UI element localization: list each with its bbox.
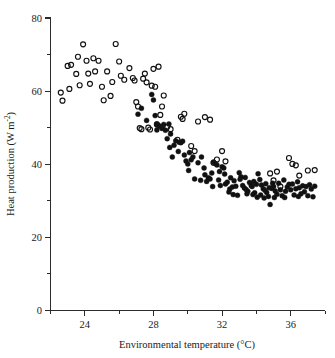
data-point-filled [232, 178, 237, 183]
data-point-open [160, 104, 165, 109]
data-point-open [101, 98, 106, 103]
data-point-filled [243, 175, 248, 180]
data-point-filled [176, 149, 181, 154]
data-point-filled [221, 165, 226, 170]
data-point-filled [187, 150, 192, 155]
data-point-filled [218, 183, 223, 188]
data-point-filled [281, 177, 286, 182]
data-point-filled [312, 184, 317, 189]
data-point-filled [163, 128, 168, 133]
data-point-filled [170, 154, 175, 159]
data-point-open [99, 84, 104, 89]
data-point-open [189, 143, 194, 148]
data-point-open [158, 112, 163, 117]
data-point-filled [255, 195, 260, 200]
data-point-filled [252, 190, 257, 195]
data-point-filled [168, 131, 173, 136]
data-point-filled [196, 160, 201, 165]
data-point-filled [231, 192, 236, 197]
data-point-filled [198, 178, 203, 183]
data-point-filled [227, 187, 232, 192]
data-point-open [87, 81, 92, 86]
data-point-open [305, 168, 310, 173]
y-tick-label: 20 [32, 232, 43, 243]
data-point-open [202, 115, 207, 120]
data-point-filled [180, 139, 185, 144]
data-point-filled [144, 118, 149, 123]
data-point-open [86, 71, 91, 76]
data-point-open [122, 77, 127, 82]
data-point-filled [263, 181, 268, 186]
data-point-open [274, 169, 279, 174]
data-point-open [142, 71, 147, 76]
data-point-filled [310, 194, 315, 199]
data-point-filled [295, 179, 300, 184]
data-point-filled [296, 194, 301, 199]
data-point-filled [244, 191, 249, 196]
data-point-open [161, 93, 166, 98]
data-point-filled [190, 154, 195, 159]
data-point-open [58, 90, 63, 95]
data-point-filled [267, 185, 272, 190]
x-axis-title: Environmental temperature (°C) [119, 339, 255, 351]
y-axis-ticks [45, 18, 51, 311]
y-tick-label: 60 [32, 86, 43, 97]
data-point-filled [153, 113, 158, 118]
data-point-filled [225, 180, 230, 185]
data-point-open [196, 119, 201, 124]
x-tick-label: 28 [148, 319, 159, 330]
data-point-filled [257, 177, 262, 182]
x-axis-ticks [51, 311, 326, 317]
data-point-filled [161, 122, 166, 127]
scatter-plot-figure: 020406080 24283236 Environmental tempera… [0, 0, 335, 358]
data-point-filled [290, 181, 295, 186]
data-point-open [60, 98, 65, 103]
x-tick-label: 32 [217, 319, 228, 330]
data-point-filled [268, 202, 273, 207]
data-point-open [105, 69, 110, 74]
data-point-filled [233, 184, 238, 189]
data-point-filled [166, 122, 171, 127]
data-point-filled [238, 177, 243, 182]
data-point-filled [210, 184, 215, 189]
data-point-open [110, 79, 115, 84]
data-point-filled [276, 181, 281, 186]
data-point-open [182, 111, 187, 116]
data-point-filled [251, 179, 256, 184]
data-point-filled [262, 195, 267, 200]
y-axis-title-group: Heat production (W m-2) [4, 111, 17, 216]
data-point-open [268, 171, 273, 176]
plot-canvas: 020406080 24283236 Environmental tempera… [0, 0, 335, 358]
data-point-filled [302, 189, 307, 194]
y-tick-label: 40 [32, 159, 43, 170]
data-point-filled [222, 172, 227, 177]
data-point-open [74, 71, 79, 76]
data-point-open [96, 58, 101, 63]
series-open-circles [58, 41, 317, 189]
data-point-open [91, 56, 96, 61]
y-axis-tick-labels: 020406080 [32, 13, 43, 317]
x-tick-label: 36 [285, 319, 296, 330]
data-point-filled [256, 171, 261, 176]
data-point-filled [151, 97, 156, 102]
data-point-open [192, 149, 197, 154]
data-point-filled [278, 187, 283, 192]
data-point-filled [202, 165, 207, 170]
data-point-open [77, 83, 82, 88]
data-point-filled [139, 106, 144, 111]
data-point-filled [167, 145, 172, 150]
data-point-open [75, 54, 80, 59]
data-point-open [84, 58, 89, 63]
data-point-filled [182, 153, 187, 158]
data-point-filled [165, 136, 170, 141]
data-point-filled [149, 92, 154, 97]
data-point-filled [272, 195, 277, 200]
data-point-filled [214, 162, 219, 167]
data-point-open [220, 149, 225, 154]
data-point-open [297, 173, 302, 178]
x-tick-label: 24 [80, 319, 91, 330]
x-axis-tick-labels: 24283236 [80, 319, 296, 330]
data-point-open [93, 69, 98, 74]
data-point-open [312, 168, 317, 173]
data-point-filled [288, 187, 293, 192]
